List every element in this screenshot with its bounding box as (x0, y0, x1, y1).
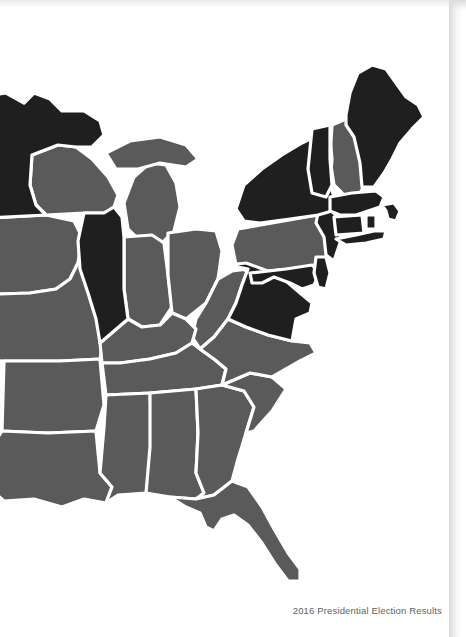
page-right-shadow (449, 0, 466, 637)
page-right-shadow-top (449, 0, 466, 10)
page-sheet: 2016 Presidential Election Results (0, 7, 449, 637)
document-page: 2016 Presidential Election Results (0, 0, 466, 637)
election-choropleth-map (0, 7, 449, 607)
figure-caption: 2016 Presidential Election Results (142, 605, 442, 617)
state-vermont (308, 125, 332, 197)
state-indiana (124, 235, 172, 327)
election-map-figure: 2016 Presidential Election Results (0, 7, 449, 607)
state-arkansas (2, 359, 104, 433)
state-delaware (314, 257, 330, 289)
page-top-edge (0, 0, 449, 7)
state-rhode-island (366, 215, 376, 229)
state-louisiana (0, 431, 112, 507)
state-connecticut (334, 215, 364, 235)
